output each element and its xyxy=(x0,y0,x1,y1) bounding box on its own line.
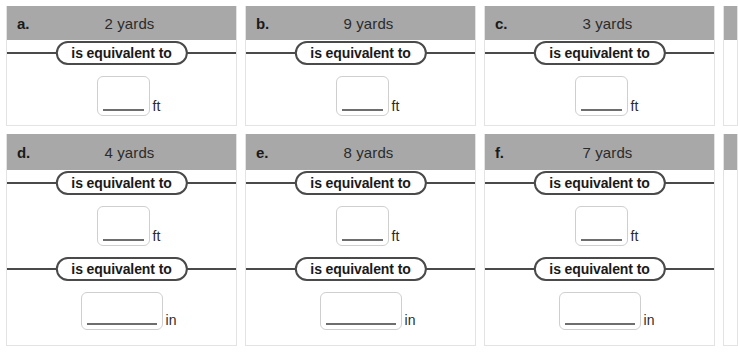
unit-label-c-ft: ft xyxy=(631,99,639,116)
problem-quantity-d: 4 yards xyxy=(7,144,236,161)
spacer xyxy=(7,282,236,292)
equivalence-row-d-1: is equivalent to xyxy=(7,170,236,196)
equivalence-pill-a-1: is equivalent to xyxy=(55,41,187,65)
problem-header-d: d. 4 yards xyxy=(7,134,236,170)
spacer xyxy=(485,66,714,76)
problem-header-partial-row2 xyxy=(724,134,737,170)
problem-header-f: f. 7 yards xyxy=(485,134,714,170)
equivalence-pill-f-2: is equivalent to xyxy=(533,257,665,281)
problem-letter-b: b. xyxy=(256,15,269,32)
problem-quantity-b: 9 yards xyxy=(246,15,475,32)
unit-label-f-ft: ft xyxy=(631,229,639,246)
equivalence-row-f-1: is equivalent to xyxy=(485,170,714,196)
problem-card-b: b. 9 yards is equivalent to ft xyxy=(245,6,476,126)
answer-wrap: ft xyxy=(575,76,639,116)
unit-label-a-ft: ft xyxy=(153,99,161,116)
spacer xyxy=(246,196,475,206)
problem-card-f: f. 7 yards is equivalent to ft is equiva… xyxy=(484,134,715,346)
answer-zone-f-1: ft xyxy=(485,206,714,246)
problem-card-d: d. 4 yards is equivalent to ft is equiva… xyxy=(6,134,237,346)
equivalence-row-e-1: is equivalent to xyxy=(246,170,475,196)
answer-zone-e-1: ft xyxy=(246,206,475,246)
problem-card-c: c. 3 yards is equivalent to ft xyxy=(484,6,715,126)
problem-letter-e: e. xyxy=(256,144,268,161)
equivalence-row-b-1: is equivalent to xyxy=(246,40,475,66)
answer-zone-d-1: ft xyxy=(7,206,236,246)
answer-wrap: in xyxy=(81,292,177,330)
problem-card-e: e. 8 yards is equivalent to ft is equiva… xyxy=(245,134,476,346)
spacer xyxy=(7,196,236,206)
problem-card-partial-row1 xyxy=(723,6,738,126)
answer-wrap: ft xyxy=(97,206,161,246)
answer-wrap: ft xyxy=(336,76,400,116)
spacer xyxy=(7,246,236,256)
answer-box-b-ft[interactable] xyxy=(336,76,389,116)
equivalence-row-d-2: is equivalent to xyxy=(7,256,236,282)
equivalence-pill-b-1: is equivalent to xyxy=(294,41,426,65)
answer-wrap: ft xyxy=(97,76,161,116)
answer-zone-b-1: ft xyxy=(246,76,475,116)
problem-quantity-f: 7 yards xyxy=(485,144,714,161)
unit-label-b-ft: ft xyxy=(392,99,400,116)
equivalence-row-c-1: is equivalent to xyxy=(485,40,714,66)
equivalence-pill-d-1: is equivalent to xyxy=(55,171,187,195)
problem-header-a: a. 2 yards xyxy=(7,6,236,40)
answer-zone-d-2: in xyxy=(7,292,236,330)
answer-wrap: ft xyxy=(336,206,400,246)
problem-letter-d: d. xyxy=(17,144,30,161)
equivalence-pill-e-2: is equivalent to xyxy=(294,257,426,281)
answer-box-d-ft[interactable] xyxy=(97,206,150,246)
spacer xyxy=(485,282,714,292)
spacer xyxy=(485,246,714,256)
answer-box-c-ft[interactable] xyxy=(575,76,628,116)
spacer xyxy=(7,66,236,76)
spacer xyxy=(246,246,475,256)
answer-box-e-in[interactable] xyxy=(320,292,402,330)
problem-card-a: a. 2 yards is equivalent to ft xyxy=(6,6,237,126)
unit-label-e-ft: ft xyxy=(392,229,400,246)
unit-label-f-in: in xyxy=(644,313,655,330)
answer-box-d-in[interactable] xyxy=(81,292,163,330)
answer-box-a-ft[interactable] xyxy=(97,76,150,116)
spacer xyxy=(485,196,714,206)
unit-label-d-ft: ft xyxy=(153,229,161,246)
answer-box-e-ft[interactable] xyxy=(336,206,389,246)
equivalence-pill-f-1: is equivalent to xyxy=(533,171,665,195)
answer-zone-f-2: in xyxy=(485,292,714,330)
problem-letter-f: f. xyxy=(495,144,504,161)
problem-letter-a: a. xyxy=(17,15,29,32)
problem-card-partial-row2 xyxy=(723,134,738,346)
answer-box-f-in[interactable] xyxy=(559,292,641,330)
unit-label-e-in: in xyxy=(405,313,416,330)
problem-letter-c: c. xyxy=(495,15,507,32)
unit-label-d-in: in xyxy=(166,313,177,330)
equivalence-pill-e-1: is equivalent to xyxy=(294,171,426,195)
equivalence-pill-d-2: is equivalent to xyxy=(55,257,187,281)
answer-zone-c-1: ft xyxy=(485,76,714,116)
spacer xyxy=(246,282,475,292)
answer-wrap: ft xyxy=(575,206,639,246)
equivalence-pill-c-1: is equivalent to xyxy=(533,41,665,65)
answer-zone-e-2: in xyxy=(246,292,475,330)
answer-zone-a-1: ft xyxy=(7,76,236,116)
problem-header-e: e. 8 yards xyxy=(246,134,475,170)
spacer xyxy=(246,66,475,76)
answer-wrap: in xyxy=(320,292,416,330)
problem-header-b: b. 9 yards xyxy=(246,6,475,40)
problem-header-partial-row1 xyxy=(724,6,737,40)
equivalence-row-f-2: is equivalent to xyxy=(485,256,714,282)
problem-quantity-a: 2 yards xyxy=(7,15,236,32)
equivalence-row-e-2: is equivalent to xyxy=(246,256,475,282)
problem-quantity-e: 8 yards xyxy=(246,144,475,161)
problem-grid: a. 2 yards is equivalent to ft b. 9 yard… xyxy=(6,6,728,346)
problem-header-c: c. 3 yards xyxy=(485,6,714,40)
problem-quantity-c: 3 yards xyxy=(485,15,714,32)
answer-wrap: in xyxy=(559,292,655,330)
equivalence-row-a-1: is equivalent to xyxy=(7,40,236,66)
answer-box-f-ft[interactable] xyxy=(575,206,628,246)
